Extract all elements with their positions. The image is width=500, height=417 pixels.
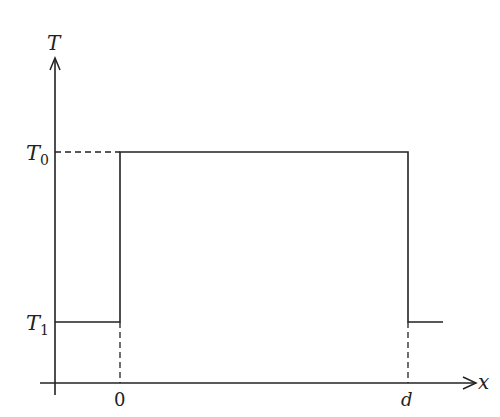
- temperature-profile-line: [55, 152, 443, 322]
- y-axis-label: T: [47, 31, 62, 55]
- t1-label: T1: [26, 311, 49, 338]
- t0-label: T0: [26, 141, 49, 168]
- x-tick-d: d: [401, 389, 413, 410]
- x-tick-0: 0: [114, 389, 125, 410]
- temperature-profile-diagram: T x T0 T1 0 d: [0, 0, 500, 417]
- x-axis-label: x: [478, 370, 489, 394]
